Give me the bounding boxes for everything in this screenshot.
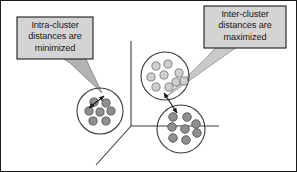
data-point (165, 83, 173, 91)
data-point (193, 129, 202, 138)
data-point (152, 83, 160, 91)
data-point (169, 134, 178, 143)
data-point (102, 99, 110, 107)
data-point (182, 136, 191, 145)
diagram-canvas (1, 1, 297, 172)
cluster-left-points (85, 98, 115, 125)
data-point (107, 107, 115, 115)
cluster-bottom-right-points (168, 113, 202, 145)
data-point (180, 77, 188, 85)
data-point (168, 123, 177, 132)
data-point (192, 120, 201, 129)
cluster-top-right-points (147, 60, 188, 91)
data-point (96, 108, 104, 116)
data-point (169, 113, 178, 122)
data-point (152, 62, 160, 70)
axis-diagonal (96, 126, 131, 165)
data-point (160, 71, 168, 79)
cluster-diagram-figure: Intra-cluster distances are minimized In… (0, 0, 297, 172)
inter-cluster-callout-box[interactable] (204, 6, 286, 48)
intra-cluster-callout-box[interactable] (17, 17, 93, 59)
data-point (183, 113, 192, 122)
data-point (102, 117, 110, 125)
three-axis-coordinate-system (96, 41, 219, 165)
cluster-left (77, 88, 123, 134)
data-point (89, 117, 97, 125)
cluster-top-right (141, 52, 189, 100)
data-point (181, 125, 190, 134)
data-point (147, 73, 155, 81)
intra-cluster-callout-tail (61, 57, 102, 93)
data-point (85, 107, 93, 115)
data-point (164, 60, 172, 68)
data-point (175, 69, 183, 77)
cluster-bottom-right (157, 105, 205, 153)
data-point (172, 78, 180, 86)
